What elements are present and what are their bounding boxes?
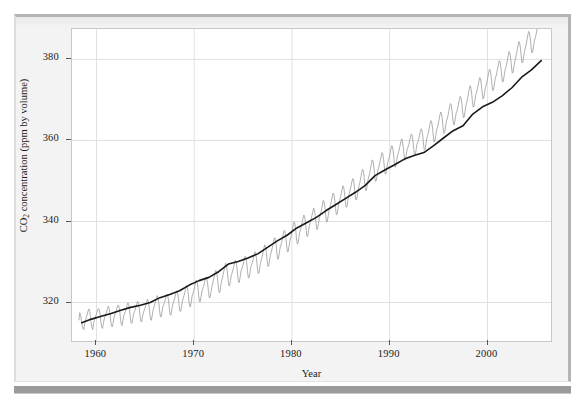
x-tick-mark: [487, 340, 488, 345]
figure-root: CO2 concentration (ppm by volume) 320340…: [0, 0, 585, 409]
x-tick-label: 1990: [364, 348, 414, 359]
x-tick-label: 1980: [266, 348, 316, 359]
y-tick-mark: [66, 302, 71, 303]
y-axis-title: CO2 concentration (ppm by volume): [18, 41, 29, 271]
y-tick-label: 340: [19, 214, 59, 225]
y-tick-label: 360: [19, 132, 59, 143]
x-tick-mark: [95, 340, 96, 345]
footer-rule: [14, 386, 571, 394]
x-tick-mark: [389, 340, 390, 345]
x-tick-label: 1970: [168, 348, 218, 359]
y-tick-mark: [66, 58, 71, 59]
x-tick-mark: [291, 340, 292, 345]
x-tick-label: 1960: [70, 348, 120, 359]
series-seasonal-line: [79, 29, 538, 330]
x-tick-label: 2000: [462, 348, 512, 359]
data-series-layer: [79, 29, 541, 330]
y-tick-mark: [66, 139, 71, 140]
y-tick-label: 380: [19, 51, 59, 62]
y-tick-mark: [66, 221, 71, 222]
y-axis-title-suffix: concentration (ppm by volume): [18, 79, 29, 214]
chart-canvas: [72, 29, 551, 341]
gridlines: [72, 29, 551, 341]
plot-area: [71, 28, 552, 342]
y-tick-label: 320: [19, 295, 59, 306]
x-tick-mark: [193, 340, 194, 345]
x-axis-title: Year: [71, 368, 552, 379]
